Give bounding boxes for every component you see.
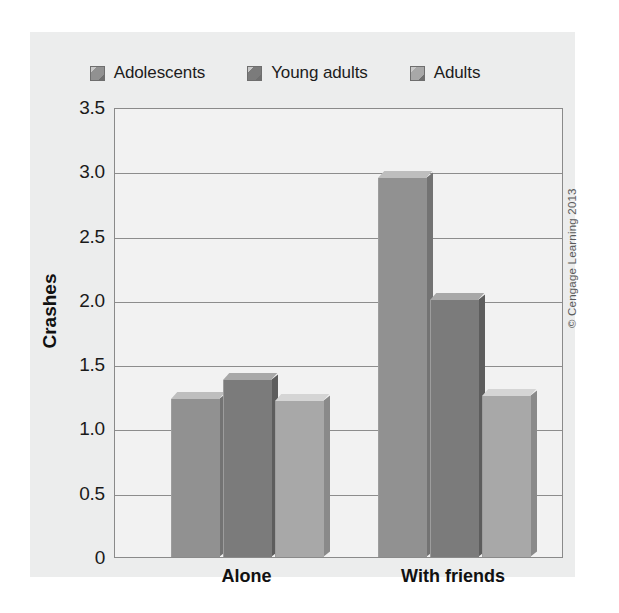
bar-side [530,391,537,557]
gridline [115,238,562,239]
bar-side [323,396,330,557]
bar-face [378,178,427,557]
bar [275,401,323,557]
bar [430,300,478,557]
legend-swatch-icon [410,66,425,81]
y-axis-tick-label: 2.5 [5,226,105,248]
legend-swatch-icon [247,66,262,81]
bar-top [482,389,536,396]
x-axis-tick-labels: AloneWith friends [114,566,563,596]
legend-entry: Adolescents [90,63,206,83]
bar [171,399,219,557]
bar-face [482,396,531,557]
bar [223,380,271,557]
legend-swatch-icon [90,66,105,81]
copyright-credit: © Cengage Learning 2013 [566,128,578,328]
legend-label: Young adults [271,63,367,83]
legend-entry: Adults [410,63,481,83]
legend-label: Adults [434,63,481,83]
y-axis-tick-label: 0.5 [5,483,105,505]
chart-figure: AdolescentsYoung adultsAdults 3.53.02.52… [0,0,619,613]
y-axis-tick-label: 0 [5,547,105,569]
y-axis-tick-label: 3.5 [5,97,105,119]
gridline [115,302,562,303]
bar-face [171,399,220,557]
bar-top [275,394,329,401]
bar-top [430,293,484,300]
bar [482,396,530,557]
y-axis-tick-label: 1.0 [5,418,105,440]
legend-entry: Young adults [247,63,367,83]
y-axis-title: Crashes [39,251,61,371]
bar-top [171,392,225,399]
y-axis-tick-label: 3.0 [5,161,105,183]
x-axis-tick-label: Alone [156,566,336,587]
legend-label: Adolescents [114,63,206,83]
chart-legend: AdolescentsYoung adultsAdults [30,56,540,90]
gridline [115,173,562,174]
gridline [115,366,562,367]
bar-face [223,380,272,557]
bar-face [430,300,479,557]
bar [378,178,426,557]
x-axis-tick-label: With friends [363,566,543,587]
plot-area [114,108,563,558]
bar-face [275,401,324,557]
bar-top [223,373,277,380]
bar-top [378,171,432,178]
